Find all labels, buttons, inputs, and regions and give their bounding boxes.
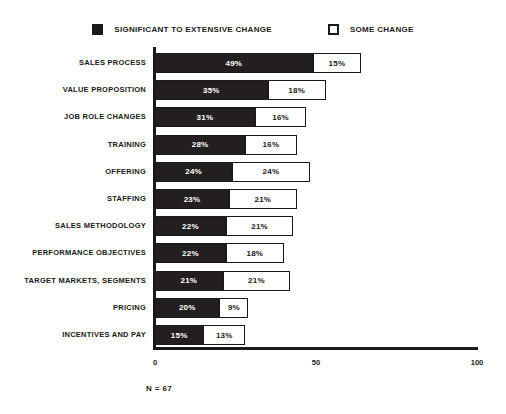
bar-segment-some: 24% bbox=[232, 162, 309, 182]
bar-row: TRAINING28%16% bbox=[0, 135, 506, 155]
legend-label: SOME CHANGE bbox=[350, 25, 414, 34]
x-tick-label: 100 bbox=[471, 358, 484, 367]
bar-value-label: 16% bbox=[263, 140, 280, 149]
bar-value-label: 16% bbox=[272, 113, 289, 122]
bar-row: OFFERING24%24% bbox=[0, 162, 506, 182]
stacked-bar: 35%18% bbox=[155, 80, 326, 100]
bar-segment-significant: 49% bbox=[155, 53, 313, 73]
x-axis-line bbox=[153, 347, 478, 350]
stacked-bar: 28%16% bbox=[155, 135, 297, 155]
bar-value-label: 18% bbox=[288, 86, 305, 95]
bar-value-label: 21% bbox=[180, 276, 197, 285]
stacked-bar: 22%21% bbox=[155, 216, 293, 236]
bar-value-label: 24% bbox=[263, 167, 280, 176]
bar-segment-some: 21% bbox=[223, 271, 291, 291]
bar-value-label: 9% bbox=[228, 303, 240, 312]
bar-value-label: 28% bbox=[192, 140, 209, 149]
bar-segment-significant: 31% bbox=[155, 107, 255, 127]
category-label: SALES METHODOLOGY bbox=[55, 216, 146, 236]
bar-segment-some: 16% bbox=[255, 107, 307, 127]
category-label: TRAINING bbox=[108, 135, 146, 155]
bar-row: SALES METHODOLOGY22%21% bbox=[0, 216, 506, 236]
bar-value-label: 35% bbox=[203, 86, 220, 95]
category-label: VALUE PROPOSITION bbox=[63, 80, 146, 100]
bar-value-label: 22% bbox=[182, 249, 199, 258]
stacked-bar: 23%21% bbox=[155, 189, 297, 209]
bar-value-label: 18% bbox=[246, 249, 263, 258]
category-label: PRICING bbox=[113, 298, 146, 318]
x-axis-tick-labels: 050100 bbox=[0, 358, 506, 372]
category-label: JOB ROLE CHANGES bbox=[64, 107, 146, 127]
stacked-bar: 21%21% bbox=[155, 271, 290, 291]
bar-row: PERFORMANCE OBJECTIVES22%18% bbox=[0, 243, 506, 263]
bar-value-label: 49% bbox=[226, 59, 243, 68]
bar-row: TARGET MARKETS, SEGMENTS21%21% bbox=[0, 271, 506, 291]
bar-segment-some: 21% bbox=[229, 189, 297, 209]
stacked-bar-chart: SIGNIFICANT TO EXTENSIVE CHANGE SOME CHA… bbox=[0, 0, 506, 414]
bar-segment-significant: 22% bbox=[155, 216, 226, 236]
hollow-square-icon bbox=[328, 24, 339, 35]
category-label: OFFERING bbox=[105, 162, 146, 182]
bar-row: INCENTIVES AND PAY15%13% bbox=[0, 325, 506, 345]
bar-segment-some: 15% bbox=[313, 53, 361, 73]
bar-segment-some: 18% bbox=[226, 243, 284, 263]
category-label: SALES PROCESS bbox=[79, 53, 146, 73]
bar-segment-some: 16% bbox=[245, 135, 297, 155]
bar-segment-significant: 22% bbox=[155, 243, 226, 263]
stacked-bar: 24%24% bbox=[155, 162, 310, 182]
bar-value-label: 24% bbox=[185, 167, 202, 176]
bar-segment-significant: 23% bbox=[155, 189, 229, 209]
bar-row: PRICING20%9% bbox=[0, 298, 506, 318]
stacked-bar: 15%13% bbox=[155, 325, 245, 345]
category-label: STAFFING bbox=[107, 189, 146, 209]
x-tick-label: 50 bbox=[312, 358, 320, 367]
bar-segment-significant: 20% bbox=[155, 298, 219, 318]
category-label: PERFORMANCE OBJECTIVES bbox=[32, 243, 146, 263]
bar-segment-some: 21% bbox=[226, 216, 294, 236]
bar-value-label: 15% bbox=[329, 59, 346, 68]
bar-row: SALES PROCESS49%15% bbox=[0, 53, 506, 73]
bar-value-label: 13% bbox=[216, 331, 233, 340]
bar-value-label: 22% bbox=[182, 222, 199, 231]
bar-segment-some: 13% bbox=[203, 325, 245, 345]
stacked-bar: 22%18% bbox=[155, 243, 284, 263]
category-label: INCENTIVES AND PAY bbox=[62, 325, 146, 345]
bar-row: STAFFING23%21% bbox=[0, 189, 506, 209]
legend-item-significant-to-extensive-change: SIGNIFICANT TO EXTENSIVE CHANGE bbox=[92, 24, 272, 35]
bar-segment-significant: 28% bbox=[155, 135, 245, 155]
bar-value-label: 20% bbox=[179, 303, 196, 312]
x-tick-label: 0 bbox=[153, 358, 157, 367]
bar-segment-significant: 35% bbox=[155, 80, 268, 100]
bar-value-label: 21% bbox=[255, 195, 272, 204]
bar-row: JOB ROLE CHANGES31%16% bbox=[0, 107, 506, 127]
stacked-bar: 20%9% bbox=[155, 298, 248, 318]
bar-value-label: 23% bbox=[184, 195, 201, 204]
bar-value-label: 21% bbox=[248, 276, 265, 285]
bar-value-label: 21% bbox=[251, 222, 268, 231]
bar-segment-some: 18% bbox=[268, 80, 326, 100]
stacked-bar: 49%15% bbox=[155, 53, 361, 73]
bar-value-label: 31% bbox=[197, 113, 214, 122]
stacked-bar: 31%16% bbox=[155, 107, 306, 127]
bar-segment-significant: 21% bbox=[155, 271, 223, 291]
bar-segment-significant: 24% bbox=[155, 162, 232, 182]
filled-square-icon bbox=[92, 24, 103, 35]
plot-area: SALES PROCESS49%15%VALUE PROPOSITION35%1… bbox=[0, 47, 506, 357]
sample-size-footnote: N = 67 bbox=[146, 384, 172, 393]
chart-legend: SIGNIFICANT TO EXTENSIVE CHANGE SOME CHA… bbox=[0, 18, 506, 40]
bar-segment-significant: 15% bbox=[155, 325, 203, 345]
bar-row: VALUE PROPOSITION35%18% bbox=[0, 80, 506, 100]
bar-value-label: 15% bbox=[171, 331, 188, 340]
legend-item-some-change: SOME CHANGE bbox=[328, 24, 414, 35]
category-label: TARGET MARKETS, SEGMENTS bbox=[24, 271, 146, 291]
bar-segment-some: 9% bbox=[219, 298, 248, 318]
legend-label: SIGNIFICANT TO EXTENSIVE CHANGE bbox=[114, 25, 272, 34]
